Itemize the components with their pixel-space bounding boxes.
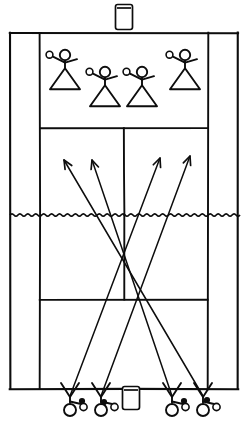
far-player-4-racket [166,51,173,58]
tube-top [116,5,133,30]
near-player-2-arm-left [92,383,101,397]
net [10,214,240,216]
net-zigzag-line [10,214,240,216]
near-player-4-racket [213,403,220,410]
far-player-1-racket [46,51,53,58]
far-player-4 [166,50,200,89]
trajectory-1-line [64,160,203,396]
far-player-3-racket [123,68,130,75]
far-player-2-head [100,67,110,77]
trajectory-4-line [101,156,190,396]
court-right-doubles-sideline [208,33,209,390]
far-player-2-racket [86,68,93,75]
court-diagram [0,0,250,430]
near-player-2-head [95,404,107,416]
trajectory-1 [64,160,203,396]
shuttle-1 [79,398,85,404]
far-side-players [46,50,200,106]
far-player-4-head [180,50,190,60]
shuttle-4 [204,397,210,403]
near-player-1-head [64,404,76,416]
shot-trajectories [64,156,203,396]
shuttle-3 [181,398,187,404]
far-player-1 [46,50,80,89]
court-center-line-far [124,128,125,215]
trajectory-2 [91,160,172,396]
court-diagram-canvas [0,0,250,430]
far-player-3-body-triangle [127,85,157,106]
near-player-3-head [166,404,178,416]
near-player-4-head [197,404,209,416]
trajectory-4 [101,156,191,396]
near-player-2-racket [111,403,118,410]
far-player-3-head [137,67,147,77]
far-player-2-body-triangle [90,85,120,106]
far-player-1-body-triangle [50,68,80,89]
trajectory-2-line [92,160,172,396]
far-player-4-body-triangle [170,68,200,89]
far-player-1-head [60,50,70,60]
near-player-1-racket [80,403,87,410]
near-player-3-racket [182,403,189,410]
shuttle-2 [101,399,107,405]
tube-bottom [123,387,140,410]
far-player-3 [123,67,157,106]
far-player-2 [86,67,120,106]
